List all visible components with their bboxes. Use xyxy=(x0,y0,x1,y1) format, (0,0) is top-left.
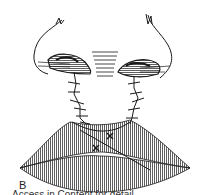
left-suture-line xyxy=(68,72,90,124)
surgical-illustration: B Access in Content for detail xyxy=(0,0,201,195)
right-suture-line xyxy=(126,76,144,124)
right-nostril xyxy=(118,60,160,77)
left-nostril xyxy=(48,54,91,74)
figure-caption: Access in Content for detail xyxy=(12,190,134,195)
lip-repair-drawing xyxy=(0,0,201,195)
columella xyxy=(92,52,118,76)
